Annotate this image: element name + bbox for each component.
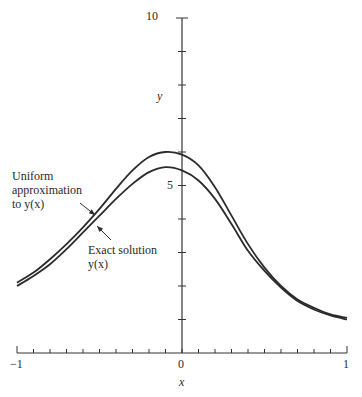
uniform-annotation-line2: approximation (12, 183, 82, 197)
x-axis-label: x (179, 375, 184, 390)
exact-annotation-line2: y(x) (88, 257, 157, 271)
uniform-annotation-line3: to y(x) (12, 197, 82, 211)
y-axis-label: y (157, 89, 162, 104)
exact-solution-annotation: Exact solution y(x) (88, 243, 157, 271)
uniform-approx-annotation: Uniform approximation to y(x) (12, 169, 82, 211)
uniform-annotation-line1: Uniform (12, 169, 82, 183)
x-tick-label-0: 0 (178, 357, 184, 372)
x-tick-label-1: 1 (343, 357, 349, 372)
y-tick-label-10: 10 (146, 9, 158, 24)
x-tick-label-neg1: −1 (10, 357, 23, 372)
y-tick-label-5: 5 (167, 178, 173, 193)
exact-annotation-line1: Exact solution (88, 243, 157, 257)
